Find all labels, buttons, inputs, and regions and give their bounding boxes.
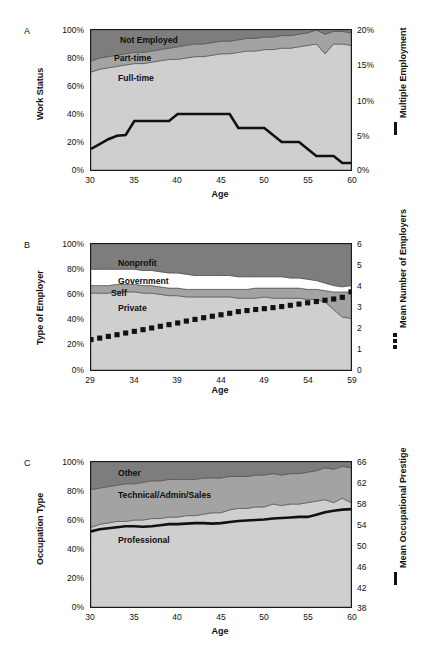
panel-b-xtick-34: 34 [129,376,138,385]
panel-b-ytick-60: 60% [44,290,84,299]
panel-a-right-axis-title: Multiple Employment [399,27,408,118]
panel-c-xtick-55: 55 [303,613,312,622]
marker-square [91,337,94,342]
panel-b-right-axis-title: Mean Number of Employers [399,209,408,328]
panel-a-y2tick-10: 10% [357,97,397,106]
panel-c-ytick-60: 60% [44,516,84,525]
panel-a-xtick-40: 40 [172,176,181,185]
panel-c-y2tick-66: 66 [357,458,397,467]
panel-a-ytick-20: 20% [44,138,84,147]
marker-square [244,308,249,313]
marker-square [340,295,345,300]
panel-b-y2tick-0: 0 [357,366,397,375]
panel-c-xtick-50: 50 [259,613,268,622]
panel-b-xtick-54: 54 [303,376,312,385]
panel-c-xaxis-title: Age [160,626,280,636]
panel-b-y2tick-4: 4 [357,282,397,291]
marker-square [166,322,171,327]
panel-b-ytick-100: 100% [44,240,84,249]
panel-a-ytick-40: 40% [44,110,84,119]
panel-a-y2tick-0: 0% [357,166,397,175]
marker-square [114,332,119,337]
panel-b-y2tick-2: 2 [357,324,397,333]
panel-c-xtick-30: 30 [85,613,94,622]
panel-a-xtick-35: 35 [129,176,138,185]
marker-square [149,325,154,330]
panel-a-xtick-55: 55 [303,176,312,185]
panel-c-label-professional: Professional [118,536,170,545]
marker-square [106,334,111,339]
marker-square [184,319,189,324]
panel-b-ytick-0: 0% [44,366,84,375]
panel-b-xaxis-title: Age [160,385,280,395]
panel-b-ytick-20: 20% [44,340,84,349]
panel-a-xtick-45: 45 [216,176,225,185]
panel-b-y2tick-6: 6 [357,240,397,249]
panel-b: B Type of Employer 100% 80% 60% 40% 20% … [0,215,433,405]
panel-b-xtick-49: 49 [259,376,268,385]
marker-square [296,302,301,307]
panel-a-ytick-80: 80% [44,54,84,63]
panel-a-ytick-100: 100% [44,26,84,35]
panel-b-ytick-40: 40% [44,315,84,324]
marker-square [218,312,223,317]
panel-c: C Occupation Type 100% 80% 60% 40% 20% 0… [0,430,433,650]
marker-square [227,311,232,316]
panel-c-y2tick-50: 50 [357,542,397,551]
marker-square [262,306,267,311]
panel-c-xtick-45: 45 [216,613,225,622]
panel-a-xaxis-title: Age [160,189,280,199]
marker-square [210,314,215,319]
panel-a-xtick-60: 60 [347,176,356,185]
marker-square [331,296,336,301]
marker-square [270,305,275,310]
panel-a-xtick-50: 50 [259,176,268,185]
panel-c-label-technical: Technical/Admin/Sales [118,491,211,500]
marker-square [348,289,351,294]
marker-square [192,317,197,322]
marker-square [253,307,258,312]
panel-c-ytick-80: 80% [44,487,84,496]
marker-square [175,320,180,325]
marker-square [140,327,145,332]
panel-a-xtick-30: 30 [85,176,94,185]
panel-a-y2tick-15: 15% [357,61,397,70]
panel-c-ytick-40: 40% [44,545,84,554]
panel-a-label-full-time: Full-time [118,74,154,83]
panel-a-label-not-employed: Not Employed [120,36,178,45]
panel-b-ytick-80: 80% [44,265,84,274]
panel-b-xtick-39: 39 [172,376,181,385]
panel-b-xtick-59: 59 [347,376,356,385]
panel-c-xtick-60: 60 [347,613,356,622]
marker-square [201,315,206,320]
panel-c-left-axis-title: Occupation Type [36,493,45,565]
panel-b-label-private: Private [118,304,147,313]
panel-a-label-part-time: Part-time [114,54,151,63]
panel-letter-b: B [24,240,30,250]
marker-square [279,304,284,309]
panel-c-y2tick-42: 42 [357,584,397,593]
panel-c-ytick-100: 100% [44,458,84,467]
marker-square [132,329,137,334]
panel-c-ytick-0: 0% [44,603,84,612]
marker-square [305,300,310,305]
panel-c-right-axis-title: Mean Occupational Prestige [399,447,408,568]
panel-a-y2tick-20: 20% [357,26,397,35]
panel-letter-c: C [24,458,31,468]
panel-b-label-nonprofit: Nonprofit [118,259,157,268]
marker-square [314,299,319,304]
panel-b-y2tick-1: 1 [357,345,397,354]
panel-c-y2tick-46: 46 [357,563,397,572]
panel-letter-a: A [24,26,30,36]
panel-c-y2tick-54: 54 [357,521,397,530]
panel-a-ytick-60: 60% [44,82,84,91]
marker-square [97,336,102,341]
marker-square [322,298,327,303]
panel-a-y2tick-5: 5% [357,132,397,141]
panel-b-xtick-44: 44 [216,376,225,385]
panel-c-xtick-35: 35 [129,613,138,622]
panel-c-label-other: Other [118,469,141,478]
panel-c-ytick-20: 20% [44,574,84,583]
panel-b-left-axis-title: Type of Employer [36,270,45,345]
panel-b-label-government: Government [118,277,169,286]
